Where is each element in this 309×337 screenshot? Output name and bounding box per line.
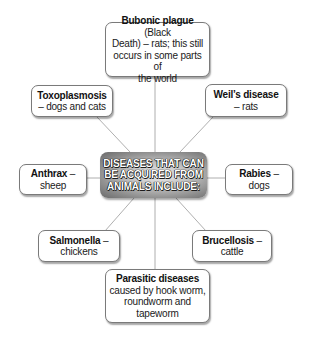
disease-detail: sheep [40,180,66,192]
node-brucellosis: Brucellosis – cattle [192,230,272,262]
node-bubonic-plague: Bubonic plague (Black Death) – rats; thi… [105,22,210,77]
connector-weils [180,117,213,152]
central-topic-line: DISEASES THAT CAN [103,158,203,170]
node-parasitic-diseases: Parasitic diseases caused by hook worm, … [105,269,210,323]
dash: – [100,235,108,246]
disease-detail: occurs in some parts of [109,50,206,73]
disease-detail: dogs [249,180,270,192]
disease-detail: cattle [221,246,244,258]
central-topic-box: DISEASES THAT CAN BE ACQUIRED FROM ANIMA… [100,152,207,198]
disease-name: Salmonella [50,235,101,246]
node-rabies: Rabies – dogs [225,164,293,195]
dash: – [67,168,75,179]
disease-name: Parasitic diseases [116,273,199,284]
connector-toxoplasmosis [97,117,130,152]
disease-detail: Death) – rats; this still [112,38,203,50]
central-topic-line: BE ACQUIRED FROM [104,169,203,181]
node-salmonella: Salmonella – chickens [38,230,120,262]
disease-name: Weil’s disease [213,89,278,100]
dash: – [271,168,279,179]
central-topic-line: ANIMALS INCLUDE: [107,181,200,193]
disease-detail: tapeworm [136,308,178,320]
connector-brucellosis [176,198,206,231]
disease-name: Bubonic plague [121,15,193,26]
disease-detail: the world [138,73,177,85]
disease-name: Rabies [239,168,271,179]
node-anthrax: Anthrax – sheep [19,164,87,195]
disease-name: Toxoplasmosis [37,90,106,101]
disease-name: Anthrax [31,168,67,179]
disease-detail: (Black [144,27,171,38]
disease-detail: roundworm and [124,296,191,308]
disease-detail: – rats [234,101,258,113]
disease-detail: chickens [60,246,97,258]
disease-detail: caused by hook worm, [109,285,205,297]
connector-salmonella [105,198,134,231]
dash: – [254,235,262,246]
node-weils-disease: Weil’s disease – rats [205,84,287,117]
node-toxoplasmosis: Toxoplasmosis – dogs and cats [31,85,113,117]
disease-detail: – dogs and cats [38,101,106,113]
disease-name: Brucellosis [202,235,254,246]
